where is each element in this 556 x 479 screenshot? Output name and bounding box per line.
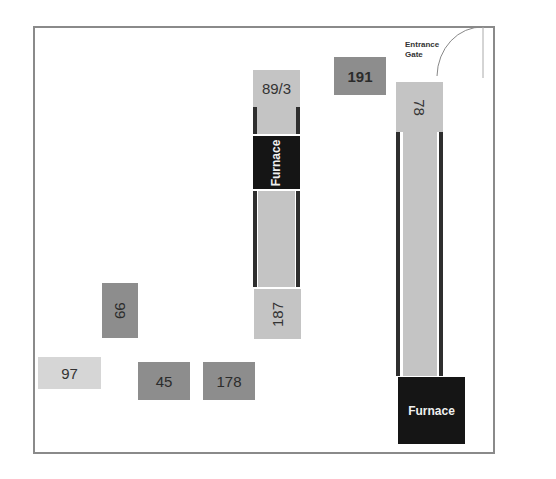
rail (296, 191, 300, 287)
rail (253, 107, 257, 134)
rail (253, 191, 257, 287)
rail (296, 107, 300, 134)
conveyor-long (403, 132, 437, 376)
conveyor-segment-1 (255, 107, 298, 134)
machine-178[interactable]: 178 (203, 362, 255, 400)
machine-furnace-right[interactable]: Furnace (398, 377, 465, 444)
conveyor-segment-2 (258, 191, 295, 287)
machine-78[interactable]: 78 (396, 82, 443, 132)
machine-furnace-middle[interactable]: Furnace (253, 136, 300, 189)
rail (439, 132, 443, 376)
machine-99[interactable]: 99 (102, 283, 138, 338)
machine-187[interactable]: 187 (254, 289, 301, 339)
entrance-gate-label: Entrance Gate (405, 40, 439, 60)
machine-191[interactable]: 191 (334, 57, 386, 95)
rail (396, 132, 400, 376)
machine-89-3[interactable]: 89/3 (253, 70, 300, 107)
machine-45[interactable]: 45 (138, 362, 190, 400)
machine-97[interactable]: 97 (38, 357, 101, 389)
